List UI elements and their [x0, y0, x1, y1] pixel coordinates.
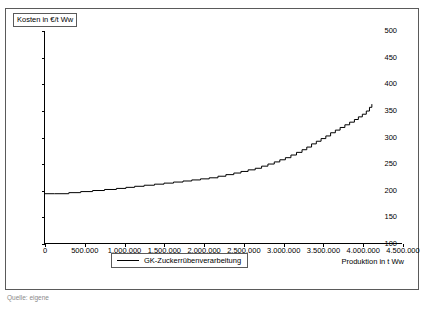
x-axis-title: Produktion in t Ww [341, 257, 404, 267]
x-tick-label: 500.000 [71, 247, 98, 255]
figure-caption: Quelle: eigene [7, 294, 49, 302]
x-tick-mark [403, 244, 404, 247]
x-tick-label: 0 [43, 247, 47, 255]
x-tick-mark [284, 244, 285, 247]
x-tick-label: 4.500.000 [386, 247, 419, 255]
legend-line-swatch [117, 260, 139, 261]
x-tick-mark [244, 244, 245, 247]
figure-page: Kosten in €/t Ww 10015020025030035040045… [0, 0, 425, 309]
x-tick-mark [164, 244, 165, 247]
chart-frame: Kosten in €/t Ww 10015020025030035040045… [5, 8, 419, 290]
series-line-gk-zuckerruebenverarbeitung [45, 104, 372, 194]
x-tick-mark [45, 244, 46, 247]
x-tick-mark [125, 244, 126, 247]
y-axis-title: Kosten in €/t Ww [13, 13, 77, 27]
x-tick-label: 4.000.000 [347, 247, 380, 255]
series-canvas [45, 31, 402, 243]
x-tick-mark [363, 244, 364, 247]
x-tick-mark [204, 244, 205, 247]
x-tick-mark [323, 244, 324, 247]
x-tick-label: 3.000.000 [267, 247, 300, 255]
x-tick-mark [85, 244, 86, 247]
x-tick-label: 3.500.000 [307, 247, 340, 255]
chart-legend: GK-Zuckerrübenverarbeitung [111, 253, 248, 268]
plot-area: 100150200250300350400450500 0500.0001.00… [44, 31, 402, 244]
legend-label: GK-Zuckerrübenverarbeitung [144, 256, 241, 265]
